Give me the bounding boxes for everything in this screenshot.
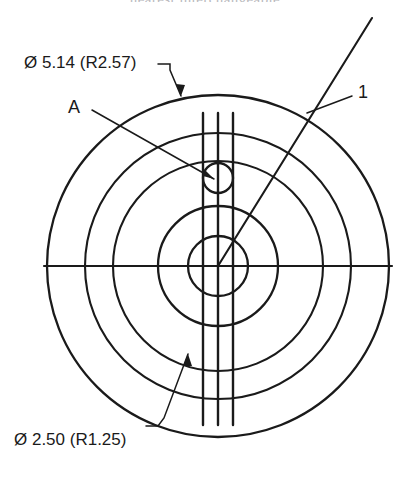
outer-diameter-label: Ø 5.14 (R2.57) [24, 53, 136, 72]
detail-a-arrowhead [203, 170, 214, 179]
item-pointer-line [218, 18, 372, 266]
item-number-label: 1 [358, 82, 368, 102]
detail-a-leader [92, 110, 214, 179]
outer-diameter-leader [158, 64, 181, 96]
detail-a-label: A [68, 97, 80, 117]
inner-diameter-arrowhead [183, 354, 192, 366]
technical-drawing-canvas: nearest interchangeable [0, 0, 410, 478]
item-number-leader [307, 96, 352, 113]
drawing-svg: Ø 5.14 (R2.57) A 1 Ø 2.50 (R1.25) [0, 0, 410, 478]
inner-diameter-label: Ø 2.50 (R1.25) [14, 430, 126, 449]
outer-diameter-arrowhead [176, 84, 185, 96]
